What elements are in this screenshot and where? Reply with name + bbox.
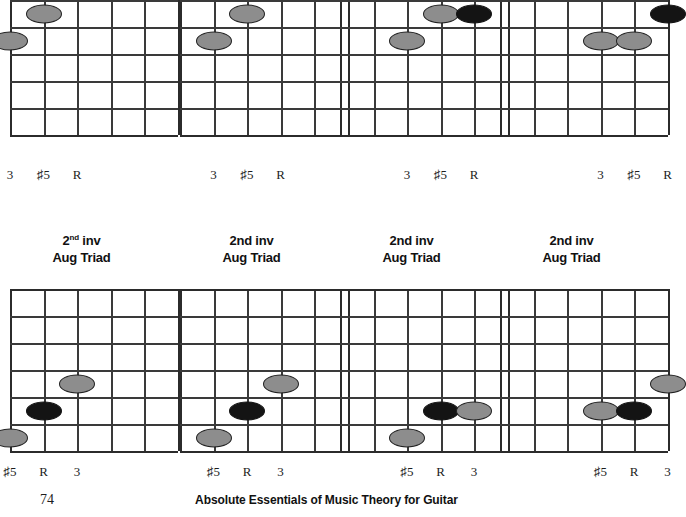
string-line (314, 0, 316, 135)
finger-dot (583, 31, 619, 50)
string-line (634, 0, 636, 135)
fretboard-grid (180, 289, 348, 451)
degree-label: 3 (471, 462, 478, 482)
fretboard-grid (340, 289, 508, 451)
fret-line (180, 424, 348, 426)
caption-line-inversion: 2nd inv (330, 232, 493, 249)
fret-line (180, 343, 348, 345)
grid-lines (180, 289, 348, 451)
chord-diagram-aug-triad-2nd-inv-1: ♯5R3 (0, 289, 163, 484)
caption-line-inversion: 2nd inv (170, 232, 333, 249)
string-line (281, 0, 283, 135)
fretboard-grid (500, 289, 668, 451)
fret-line (500, 27, 668, 29)
chord-diagram-row-bottom: ♯5R3♯5R3♯5R3♯5R3 (0, 289, 653, 484)
fret-line (180, 135, 348, 137)
degree-label-row: ♯5R3 (330, 462, 493, 482)
finger-dot (650, 374, 686, 393)
fret-line (340, 370, 508, 372)
fret-line (500, 397, 668, 399)
fret-line (10, 289, 178, 291)
finger-dot (229, 4, 265, 23)
fret-line (10, 81, 178, 83)
finger-dot (423, 4, 459, 23)
degree-label: ♯5 (207, 462, 220, 482)
fret-line (340, 451, 508, 453)
fret-line (500, 343, 668, 345)
degree-label-row: 3♯5R (0, 165, 163, 185)
caption-line-inversion: 2nd inv (0, 232, 163, 249)
string-line (214, 0, 216, 135)
finger-dot (456, 4, 492, 23)
caption-line-chord-type: Aug Triad (170, 249, 333, 266)
degree-label: ♯5 (628, 165, 641, 185)
fret-line (500, 370, 668, 372)
finger-dot (423, 401, 459, 420)
caption-line-chord-type: Aug Triad (490, 249, 653, 266)
fret-line (340, 54, 508, 56)
finger-dot (616, 401, 652, 420)
finger-dot (583, 401, 619, 420)
string-line (567, 0, 569, 135)
string-line (340, 0, 342, 135)
fret-line (10, 316, 178, 318)
degree-label: R (73, 165, 82, 185)
string-line (180, 0, 182, 135)
caption-line-chord-type: Aug Triad (330, 249, 493, 266)
finger-dot (650, 4, 686, 23)
chord-diagram-aug-triad-2nd-inv-3: ♯5R3 (330, 289, 493, 484)
degree-label-row: 3♯5R (330, 165, 493, 185)
fret-line (180, 27, 348, 29)
chord-diagram-aug-triad-4: 3♯5R (490, 0, 653, 190)
fret-line (180, 0, 348, 2)
chord-caption: 2nd invAug Triad (170, 232, 333, 266)
fret-line (340, 343, 508, 345)
degree-label-row: ♯5R3 (170, 462, 333, 482)
chord-diagram-aug-triad-2nd-inv-2: ♯5R3 (170, 289, 333, 484)
degree-label: 3 (277, 462, 284, 482)
fretboard-grid (180, 0, 348, 135)
finger-dot (616, 31, 652, 50)
fret-line (10, 343, 178, 345)
degree-label: R (39, 462, 48, 482)
string-line (601, 0, 603, 135)
chord-diagram-row-top: 3♯5R3♯5R3♯5R3♯5R (0, 0, 653, 190)
fret-line (180, 316, 348, 318)
fret-line (10, 397, 178, 399)
chord-caption: 2nd invAug Triad (0, 232, 163, 266)
string-line (10, 0, 12, 135)
degree-label: 3 (404, 165, 411, 185)
fret-line (500, 289, 668, 291)
fret-line (10, 27, 178, 29)
fret-line (10, 0, 178, 2)
chord-diagram-aug-triad-1: 3♯5R (0, 0, 163, 190)
fret-line (180, 54, 348, 56)
string-line (407, 0, 409, 135)
finger-dot (196, 428, 232, 447)
degree-label: R (276, 165, 285, 185)
degree-label: 3 (7, 165, 14, 185)
grid-lines (500, 289, 668, 451)
finger-dot (196, 31, 232, 50)
chord-caption: 2nd invAug Triad (490, 232, 653, 266)
fret-line (180, 81, 348, 83)
degree-label-row: ♯5R3 (490, 462, 653, 482)
fret-line (340, 397, 508, 399)
degree-label: R (663, 165, 672, 185)
string-line (77, 0, 79, 135)
string-line (500, 0, 502, 135)
finger-dot (26, 401, 62, 420)
fret-line (500, 451, 668, 453)
fret-line (10, 135, 178, 137)
grid-lines (500, 0, 668, 135)
degree-label: ♯5 (37, 165, 50, 185)
fret-line (500, 316, 668, 318)
page-footer: 74 Absolute Essentials of Music Theory f… (0, 492, 653, 517)
fretboard-grid (10, 0, 178, 135)
fretboard-grid (500, 0, 668, 135)
fret-line (340, 81, 508, 83)
degree-label: R (470, 165, 479, 185)
fret-line (10, 451, 178, 453)
degree-label: R (630, 462, 639, 482)
